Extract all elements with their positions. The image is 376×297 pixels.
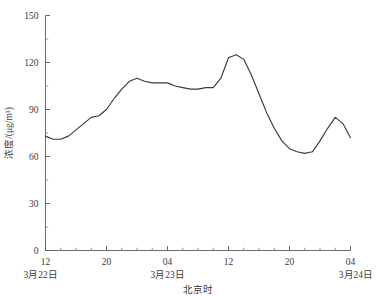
x-tick-label: 04 [346,257,356,267]
y-tick-label: 0 [34,246,39,256]
x-date-label: 3月23日 [150,270,184,280]
y-tick-label: 60 [29,152,39,162]
x-axis-tick-labels: 122004122004 [41,257,356,267]
x-axis-ticks [46,246,351,251]
x-axis-date-labels: 3月22日3月23日3月24日 [24,270,374,280]
x-tick-label: 04 [163,257,173,267]
x-tick-label: 12 [224,257,234,267]
y-axis-ticks [46,16,51,251]
x-tick-label: 20 [102,257,112,267]
y-tick-label: 120 [24,58,39,68]
chart-figure: 0306090120150 122004122004 3月22日3月23日3月2… [0,0,376,297]
data-series-line [46,55,351,154]
y-tick-label: 150 [24,11,39,21]
x-tick-label: 12 [41,257,51,267]
y-axis-title: 浓度/(μg/m³) [3,107,15,159]
x-tick-label: 20 [285,257,295,267]
x-date-label: 3月24日 [339,270,373,280]
y-axis-tick-labels: 0306090120150 [24,11,39,256]
concentration-time-series-chart: 0306090120150 122004122004 3月22日3月23日3月2… [0,0,376,297]
x-date-label: 3月22日 [24,270,58,280]
plot-area: 0306090120150 122004122004 3月22日3月23日3月2… [24,11,374,280]
y-tick-label: 90 [29,105,39,115]
x-axis-title: 北京时 [183,284,213,295]
y-tick-label: 30 [29,199,39,209]
